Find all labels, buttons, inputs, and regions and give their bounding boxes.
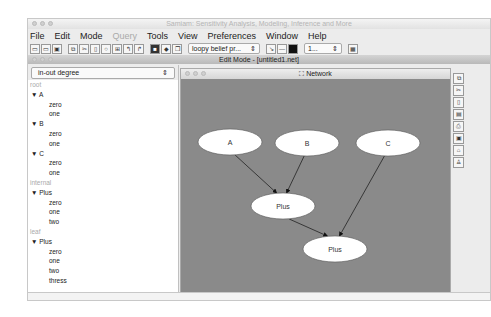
- samiam-window: Samiam: Sensitivity Analysis, Modeling, …: [27, 18, 491, 301]
- tree-value[interactable]: one: [28, 256, 178, 266]
- edge-A-P1[interactable]: [235, 155, 277, 193]
- menu-tools[interactable]: Tools: [147, 31, 168, 41]
- query-mode-icon[interactable]: ■: [150, 44, 160, 54]
- menu-bar: File Edit Mode Query Tools View Preferen…: [28, 29, 490, 42]
- tree-value[interactable]: zero: [28, 158, 178, 168]
- title-bar: Samiam: Sensitivity Analysis, Modeling, …: [28, 19, 490, 29]
- network-window: ⛶ Network ABCPlusPlus: [180, 68, 451, 293]
- svg-text:C: C: [385, 140, 390, 147]
- network-node-B[interactable]: B: [275, 130, 339, 156]
- tree-category: root: [28, 80, 178, 90]
- tree-value[interactable]: one: [28, 207, 178, 217]
- ruler-icon[interactable]: ―: [277, 44, 287, 54]
- tree-category: leaf: [28, 227, 178, 237]
- menu-query[interactable]: Query: [113, 31, 138, 41]
- menu-preferences[interactable]: Preferences: [207, 31, 256, 41]
- toolbar: ▭ ▭ ▣ ⧉ ✂ ▯ ○ ⊞ ↰ ↱ ■ ◆ ❐ loopy belief p…: [28, 42, 490, 55]
- menu-view[interactable]: View: [178, 31, 197, 41]
- save-icon[interactable]: ▣: [453, 133, 464, 144]
- tree-category: internal: [28, 178, 178, 188]
- network-node-A[interactable]: A: [198, 129, 262, 155]
- network-node-P1[interactable]: Plus: [251, 193, 315, 219]
- svg-text:A: A: [228, 139, 233, 146]
- cut-icon[interactable]: ✂: [79, 44, 89, 54]
- new-file-icon[interactable]: ▭: [30, 44, 40, 54]
- grid-icon[interactable]: ⊞: [112, 44, 122, 54]
- tree-value[interactable]: thress: [28, 276, 178, 286]
- svg-text:B: B: [305, 140, 310, 147]
- tree-node[interactable]: ▼ C: [28, 149, 178, 159]
- tree-value[interactable]: one: [28, 109, 178, 119]
- open-file-icon[interactable]: ▭: [41, 44, 51, 54]
- cut-icon[interactable]: ✂: [453, 85, 464, 96]
- undo-icon[interactable]: ↰: [123, 44, 133, 54]
- network-titlebar: ⛶ Network: [181, 69, 450, 79]
- svg-text:Plus: Plus: [276, 203, 290, 210]
- tree-value[interactable]: one: [28, 139, 178, 149]
- edge-B-P1[interactable]: [287, 156, 305, 193]
- tree-value[interactable]: two: [28, 217, 178, 227]
- tree-value[interactable]: zero: [28, 247, 178, 257]
- svg-text:Plus: Plus: [328, 246, 342, 253]
- edge-P1-P2[interactable]: [289, 219, 327, 236]
- edit-mode-titlebar: Edit Mode - [untitled1.net]: [28, 55, 490, 64]
- edge-C-P2[interactable]: [339, 156, 384, 236]
- tree-value[interactable]: two: [28, 266, 178, 276]
- tree-node[interactable]: ▼ Plus: [28, 188, 178, 198]
- table-icon[interactable]: ▤: [453, 109, 464, 120]
- menu-window[interactable]: Window: [266, 31, 298, 41]
- menu-file[interactable]: File: [30, 31, 45, 41]
- evidence-icon[interactable]: ◆: [161, 44, 171, 54]
- network-node-P2[interactable]: Plus: [303, 236, 367, 262]
- tree-node[interactable]: ▼ A: [28, 90, 178, 100]
- monitor-icon[interactable]: [288, 44, 298, 54]
- network-node-C[interactable]: C: [356, 130, 420, 156]
- algorithm-select[interactable]: loopy belief pr...⇕: [188, 43, 260, 54]
- status-bar: [28, 292, 490, 300]
- paste-icon[interactable]: ▯: [90, 44, 100, 54]
- lock-icon[interactable]: ⌂: [453, 145, 464, 156]
- circle-icon[interactable]: ○: [101, 44, 111, 54]
- sort-dropdown[interactable]: in-out degree⇕: [31, 67, 175, 79]
- tree-value[interactable]: zero: [28, 129, 178, 139]
- printer-icon[interactable]: ⎙: [453, 121, 464, 132]
- copy-icon[interactable]: ⧉: [453, 73, 464, 84]
- copy-icon[interactable]: ⧉: [68, 44, 78, 54]
- tree-node[interactable]: ▼ B: [28, 119, 178, 129]
- tree-value[interactable]: zero: [28, 198, 178, 208]
- window-icon[interactable]: ❐: [172, 44, 182, 54]
- tree-node[interactable]: ▼ Plus: [28, 237, 178, 247]
- tree-value[interactable]: zero: [28, 100, 178, 110]
- side-toolbar: ⧉ ✂ ▯ ▤ ⎙ ▣ ⌂ ♙: [453, 73, 465, 168]
- node-list-panel: in-out degree⇕ root▼ Azeroone▼ Bzeroone▼…: [28, 65, 179, 295]
- save-file-icon[interactable]: ▣: [52, 44, 62, 54]
- tree-value[interactable]: one: [28, 168, 178, 178]
- network-graph[interactable]: ABCPlusPlus: [181, 79, 450, 292]
- menu-help[interactable]: Help: [308, 31, 327, 41]
- menu-edit[interactable]: Edit: [55, 31, 71, 41]
- window-title: Samiam: Sensitivity Analysis, Modeling, …: [28, 19, 490, 29]
- redo-icon[interactable]: ↱: [134, 44, 144, 54]
- node-tree: root▼ Azeroone▼ Bzeroone▼ Czerooneintern…: [28, 80, 178, 286]
- menu-mode[interactable]: Mode: [80, 31, 103, 41]
- zoom-select[interactable]: 1...⇕: [304, 43, 342, 54]
- paste-icon[interactable]: ▯: [453, 97, 464, 108]
- panel-icon[interactable]: ▦: [348, 44, 358, 54]
- network-canvas[interactable]: ABCPlusPlus: [181, 79, 450, 292]
- user-icon[interactable]: ♙: [453, 157, 464, 168]
- edge-tool-icon[interactable]: ↘: [266, 44, 276, 54]
